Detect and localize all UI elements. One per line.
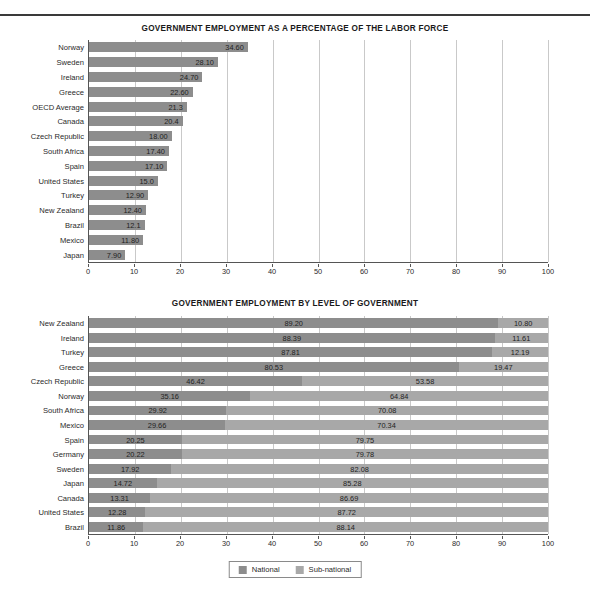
chart-row: Brazil11.8688.14 [89,522,548,532]
bar: 11.80 [89,235,143,245]
category-label: Norway [58,43,84,52]
bar-value-label: 89.20 [284,319,303,328]
bar-segment-national: 14.72 [89,478,157,488]
chart-row: United States12.2887.72 [89,507,548,517]
chart-row: Greece80.5319.47 [89,362,548,372]
chart-row: United States15.0 [89,176,548,186]
bar-value-label: 18.00 [149,132,168,141]
bar-segment-national: 87.81 [89,347,492,357]
bar-segment-national: 29.66 [89,420,225,430]
x-axis-tick-label: 40 [268,267,276,276]
chart2-x-axis-line [88,534,548,535]
legend-item-national[interactable]: National [239,565,280,574]
legend-label: Sub-national [309,565,352,574]
chart2-bar-rows: New Zealand89.2010.80Ireland88.3911.61Tu… [89,316,548,534]
bar-segment-national: 13.31 [89,493,150,503]
category-label: Greece [59,87,84,96]
bar-value-label: 87.81 [281,348,300,357]
chart1-x-axis-line [88,262,548,263]
bar-value-label: 29.92 [148,406,167,415]
bar: 28.10 [89,57,218,67]
chart-row: Sweden17.9282.08 [89,464,548,474]
x-axis-tick-label: 80 [452,539,460,548]
chart2-x-axis-ticks: 0102030405060708090100 [88,536,548,550]
legend-label: National [252,565,280,574]
bar-value-label: 88.14 [336,522,355,531]
bar-value-label: 7.90 [107,250,121,259]
category-label: Brazil [65,522,84,531]
bar-segment-subnational: 85.28 [157,478,548,488]
bar-segment-national: 46.42 [89,376,302,386]
legend-item-subnational[interactable]: Sub-national [296,565,352,574]
bar-value-label: 17.10 [145,161,164,170]
chart-row: Czech Republic46.4253.58 [89,376,548,386]
chart-row: New Zealand89.2010.80 [89,318,548,328]
bar-segment-subnational: 88.14 [143,522,548,532]
chart1-plot-area: Norway34.60Sweden28.10Ireland24.70Greece… [88,40,548,262]
x-axis-tick-label: 50 [314,267,322,276]
chart-row: Norway35.1664.84 [89,391,548,401]
chart1-x-axis-ticks: 0102030405060708090100 [88,264,548,278]
bar: 15.0 [89,176,158,186]
bar-value-label: 79.78 [356,450,375,459]
chart-level-of-government: New Zealand89.2010.80Ireland88.3911.61Tu… [0,316,590,556]
chart-labor-force-percentage: Norway34.60Sweden28.10Ireland24.70Greece… [0,40,590,290]
category-label: Canada [57,493,84,502]
bar-value-label: 29.66 [148,420,167,429]
bar-value-label: 22.60 [170,87,189,96]
x-axis-tick-label: 0 [86,267,90,276]
bar-segment-subnational: 70.34 [225,420,548,430]
chart-row: New Zealand12.40 [89,205,548,215]
bar-segment-subnational: 82.08 [171,464,548,474]
bar-value-label: 11.86 [107,522,125,531]
chart-row: Ireland88.3911.61 [89,333,548,343]
x-axis-tick-label: 100 [542,267,554,276]
bar-value-label: 87.72 [337,508,356,517]
chart-row: Mexico29.6670.34 [89,420,548,430]
category-label: South Africa [43,406,84,415]
chart1-bar-rows: Norway34.60Sweden28.10Ireland24.70Greece… [89,40,548,262]
x-axis-tick-label: 90 [498,539,506,548]
x-axis-tick-label: 0 [86,539,90,548]
chart1-title: GOVERNMENT EMPLOYMENT AS A PERCENTAGE OF… [0,24,590,33]
x-axis-tick-label: 60 [360,539,368,548]
bar-value-label: 53.58 [416,377,435,386]
bar-segment-national: 12.28 [89,507,145,517]
category-label: Japan [63,250,84,259]
category-label: Czech Republic [31,132,84,141]
chart-page: GOVERNMENT EMPLOYMENT AS A PERCENTAGE OF… [0,0,590,597]
x-axis-tick-label: 40 [268,539,276,548]
bar-segment-national: 29.92 [89,406,226,416]
chart-row: Czech Republic18.00 [89,131,548,141]
bar-segment-national: 20.25 [89,435,182,445]
bar: 24.70 [89,72,202,82]
bar-value-label: 11.61 [512,333,530,342]
bar-segment-subnational: 11.61 [495,333,548,343]
bar-segment-national: 88.39 [89,333,495,343]
category-label: Sweden [57,464,84,473]
category-label: South Africa [43,146,84,155]
chart-row: Turkey87.8112.19 [89,347,548,357]
chart-legend: NationalSub-national [229,561,362,578]
bar-value-label: 14.72 [114,479,133,488]
bar-value-label: 85.28 [343,479,362,488]
chart-row: Canada20.4 [89,116,548,126]
chart-row: South Africa29.9270.08 [89,406,548,416]
bar-segment-subnational: 12.19 [492,347,548,357]
chart-row: Norway34.60 [89,42,548,52]
x-axis-tick-label: 20 [176,267,184,276]
bar-segment-national: 80.53 [89,362,459,372]
category-label: Norway [58,391,84,400]
chart-row: Spain17.10 [89,161,548,171]
bar-value-label: 46.42 [186,377,205,386]
category-label: Czech Republic [31,377,84,386]
category-label: Spain [65,435,84,444]
x-axis-tick-label: 50 [314,539,322,548]
x-axis-tick-label: 70 [406,539,414,548]
category-label: Turkey [61,348,84,357]
category-label: OECD Average [32,102,84,111]
bar: 12.90 [89,190,148,200]
bar-value-label: 21.3 [168,102,182,111]
bar-value-label: 86.69 [340,493,359,502]
bar-segment-national: 89.20 [89,318,498,328]
